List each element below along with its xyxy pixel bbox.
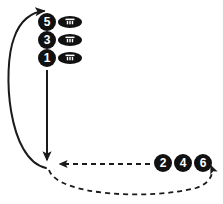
player-marker-2: 2 — [154, 154, 172, 172]
football-icon-row-3 — [58, 52, 82, 64]
football-icon-row-1 — [58, 16, 82, 28]
player-marker-3: 3 — [38, 31, 56, 49]
player-marker-2-label: 2 — [160, 156, 167, 170]
football-drill-diagram: 5 3 1 2 4 6 — [0, 0, 223, 204]
player-marker-6: 6 — [194, 154, 212, 172]
player-marker-3-label: 3 — [44, 33, 51, 47]
player-marker-1-label: 1 — [44, 51, 51, 65]
player-marker-5: 5 — [38, 13, 56, 31]
player-marker-6-label: 6 — [200, 156, 207, 170]
player-marker-5-label: 5 — [44, 15, 51, 29]
player-marker-4-label: 4 — [180, 156, 187, 170]
diagram-canvas: 5 3 1 2 4 6 — [0, 0, 223, 204]
player-marker-4: 4 — [174, 154, 192, 172]
football-icon-row-2 — [58, 34, 82, 46]
player-marker-1: 1 — [38, 49, 56, 67]
